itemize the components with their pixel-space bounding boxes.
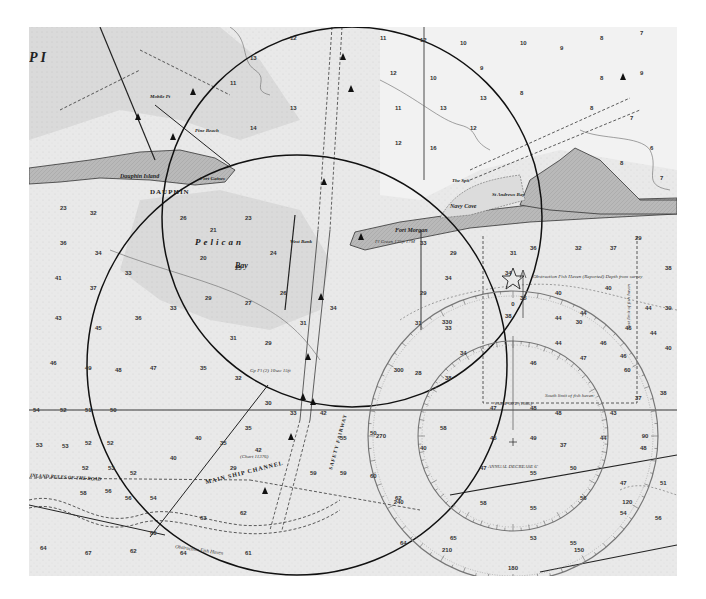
depth-sounding: 37 [90,285,97,291]
depth-sounding: 56 [105,488,112,494]
depth-sounding: 53 [36,442,43,448]
depth-sounding: 64 [400,540,407,546]
depth-sounding: 52 [60,407,67,413]
label-obstruction-reported: Obstruction Fish Haven (Reported) Depth … [533,274,643,279]
depth-sounding: 46 [600,340,607,346]
depth-sounding: 13 [290,105,297,111]
compass-degree-label: 150 [574,547,585,553]
depth-sounding: 20 [200,255,207,261]
depth-sounding: 40 [555,290,562,296]
label-dauphin: DAUPHIN [150,188,190,196]
depth-sounding: 34 [505,270,512,276]
depth-sounding: 45 [490,435,497,441]
depth-sounding: 46 [50,360,57,366]
depth-sounding: 12 [470,125,477,131]
depth-sounding: 52 [130,470,137,476]
depth-sounding: 55 [570,540,577,546]
depth-sounding: 60 [370,473,377,479]
depth-sounding: 33 [420,240,427,246]
depth-sounding: 46 [530,360,537,366]
depth-sounding: 48 [555,410,562,416]
depth-sounding: 40 [170,455,177,461]
label-fort-gaines: Fort Gaines [200,176,225,181]
depth-sounding: 54 [33,407,40,413]
depth-sounding: 62 [130,548,137,554]
depth-sounding: 34 [460,350,467,356]
label-st-andrews-bay: St Andrews Bay [492,192,525,197]
label-fort-morgan: Fort Morgan [395,227,428,233]
depth-sounding: 54 [150,495,157,501]
depth-sounding: 31 [230,335,237,341]
depth-sounding: 63 [200,515,207,521]
depth-sounding: 31 [300,320,307,326]
depth-sounding: 55 [530,505,537,511]
depth-sounding: 29 [450,250,457,256]
depth-sounding: 13 [480,95,487,101]
depth-sounding: 33 [170,305,177,311]
depth-sounding: 45 [95,325,102,331]
depth-sounding: 38 [505,313,512,319]
depth-sounding: 36 [135,315,142,321]
depth-sounding: 29 [635,235,642,241]
depth-sounding: 38 [445,375,452,381]
depth-sounding: 12 [390,70,397,76]
depth-sounding: 38 [665,265,672,271]
depth-sounding: 37 [635,395,642,401]
depth-sounding: 36 [530,245,537,251]
depth-sounding: 46 [620,353,627,359]
depth-sounding: 50 [110,407,117,413]
compass-degree-label: 270 [376,433,387,439]
depth-sounding: 44 [555,315,562,321]
compass-degree-label: 30 [576,319,583,325]
depth-sounding: 55 [530,470,537,476]
depth-sounding: 35 [520,295,527,301]
label-fort-morgan-light: Fl Green 125ft 17M [374,239,416,244]
depth-sounding: 48 [115,367,122,373]
label-west-bank: West Bank [290,239,312,244]
depth-sounding: 58 [480,500,487,506]
depth-sounding: 40 [605,285,612,291]
depth-sounding: 32 [90,210,97,216]
depth-sounding: 28 [415,370,422,376]
depth-sounding: 54 [620,510,627,516]
depth-sounding: 48 [640,445,647,451]
depth-sounding: 41 [55,275,62,281]
depth-sounding: 52 [107,440,114,446]
depth-sounding: 23 [60,205,67,211]
depth-sounding: 35 [200,365,207,371]
depth-sounding: 59 [310,470,317,476]
depth-sounding: 62 [395,495,402,501]
label-sand-island-light: Gp Fl (2) 10sec 15ft [250,368,291,373]
depth-sounding: 11 [380,35,387,41]
depth-sounding: 47 [480,465,487,471]
depth-sounding: 39 [665,305,672,311]
depth-sounding: 42 [255,447,262,453]
depth-sounding: 53 [530,535,537,541]
magnetic-variation-label: VAR 4°00'E (1985) [494,401,533,406]
depth-sounding: 65 [450,535,457,541]
depth-sounding: 44 [650,330,657,336]
depth-sounding: 29 [420,290,427,296]
annual-decrease-label: ANNUAL DECREASE 6' [487,464,539,469]
depth-sounding: 61 [245,550,252,556]
compass-degree-label: 330 [442,319,453,325]
depth-sounding: 12 [290,35,297,41]
depth-sounding: 13 [440,105,447,111]
depth-sounding: 44 [580,310,587,316]
depth-sounding: 47 [150,365,157,371]
depth-sounding: 29 [230,465,237,471]
depth-sounding: 34 [330,305,337,311]
depth-sounding: 23 [245,215,252,221]
depth-sounding: 37 [560,442,567,448]
compass-degree-label: 210 [442,547,453,553]
depth-sounding: 37 [610,245,617,251]
depth-sounding: 11 [230,80,237,86]
depth-sounding: 11 [395,105,402,111]
depth-sounding: 59 [340,470,347,476]
depth-sounding: 44 [645,305,652,311]
nautical-chart: VAR 4°00'E (1985) ANNUAL DECREASE 6' 030… [29,27,677,576]
label-petit-bois: P I [29,50,47,65]
depth-sounding: 67 [85,550,92,556]
depth-sounding: 26 [180,215,187,221]
compass-degree-label: 60 [624,367,631,373]
